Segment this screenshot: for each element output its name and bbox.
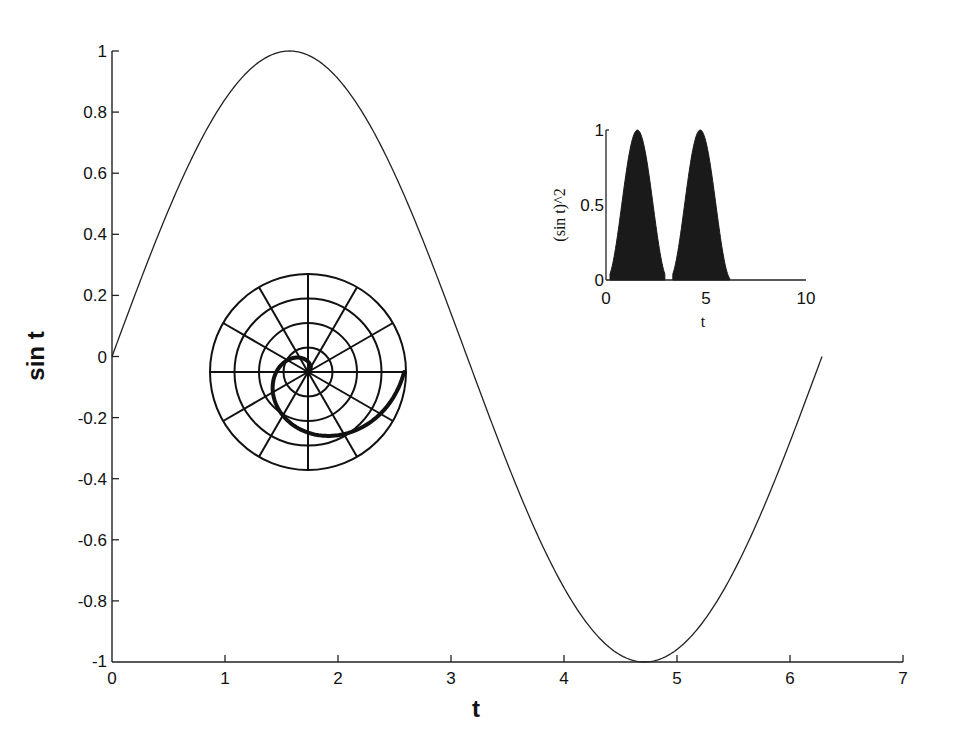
chart-canvas: 01234567 10.80.60.40.20-0.2-0.4-0.6-0.8-… (0, 0, 955, 753)
y-axis-label: sin t (22, 331, 49, 380)
inset-y-tick-label: 0.5 (580, 196, 604, 215)
inset-y-axis-label: (sin t)^2 (551, 188, 569, 241)
y-tick-label: -0.4 (78, 470, 107, 489)
y-tick-label: 0.8 (83, 103, 107, 122)
y-tick-label: -1 (92, 652, 107, 671)
inset-area-fill (610, 130, 730, 280)
x-tick-label: 5 (672, 669, 681, 688)
inset-y-tick-label: 1 (595, 121, 604, 140)
y-tick-label: 1 (98, 42, 107, 61)
y-axis-ticks: 10.80.60.40.20-0.2-0.4-0.6-0.8-1 (78, 42, 119, 671)
x-tick-label: 2 (333, 669, 342, 688)
x-tick-label: 3 (446, 669, 455, 688)
sin-curve (112, 51, 822, 662)
inset-x-tick-label: 10 (797, 289, 816, 308)
inset-x-tick-label: 5 (701, 289, 710, 308)
y-tick-label: 0.2 (83, 286, 107, 305)
x-tick-label: 7 (898, 669, 907, 688)
inset-x-tick-label: 0 (601, 289, 610, 308)
x-axis-label: t (472, 695, 480, 722)
x-axis-ticks: 01234567 (107, 655, 907, 688)
x-tick-label: 6 (785, 669, 794, 688)
x-tick-label: 4 (559, 669, 568, 688)
y-tick-label: -0.8 (78, 592, 107, 611)
x-tick-label: 1 (220, 669, 229, 688)
y-tick-label: 0.4 (83, 225, 107, 244)
y-tick-label: -0.6 (78, 531, 107, 550)
inset-y-tick-label: 0 (595, 271, 604, 290)
main-axes (112, 51, 903, 662)
x-tick-label: 0 (107, 669, 116, 688)
y-tick-label: 0.6 (83, 164, 107, 183)
y-tick-label: -0.2 (78, 409, 107, 428)
inset-x-axis-label: t (701, 313, 706, 330)
y-tick-label: 0 (98, 348, 107, 367)
